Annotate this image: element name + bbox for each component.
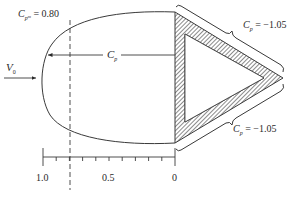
cp-value: −1.05	[253, 123, 276, 134]
cp-subscript: p	[250, 26, 253, 32]
cp-value: 0.80	[42, 8, 60, 19]
v-symbol: V	[6, 61, 13, 73]
equals-sign: =	[255, 19, 261, 30]
cp-symbol: C	[233, 123, 240, 134]
freestream-label: V0	[6, 62, 16, 73]
cp-subscript: p	[114, 56, 117, 62]
scale-axis	[43, 148, 175, 166]
equals-sign: =	[33, 8, 39, 19]
body-cp-label: Cp	[107, 49, 117, 60]
lower-cp-label: Cp = −1.05	[233, 124, 276, 134]
v-subscript: 0	[13, 69, 16, 75]
cp-value: −1.05	[263, 19, 286, 30]
pressure-diagram	[0, 0, 299, 201]
axis-tick-label-1-0: 1.0	[36, 173, 49, 183]
cp-subsubscript: m	[28, 14, 31, 19]
upper-cp-label: Cp = −1.05	[243, 20, 286, 30]
stagnation-cp-label: Cpm = 0.80	[18, 9, 59, 19]
axis-tick-label-0: 0	[172, 173, 177, 183]
body-outline	[42, 12, 175, 144]
cp-symbol: C	[243, 19, 250, 30]
axis-tick-label-0-5: 0.5	[102, 173, 115, 183]
cp-subscript: p	[240, 130, 243, 136]
equals-sign: =	[245, 123, 251, 134]
cp-symbol: C	[18, 8, 25, 19]
